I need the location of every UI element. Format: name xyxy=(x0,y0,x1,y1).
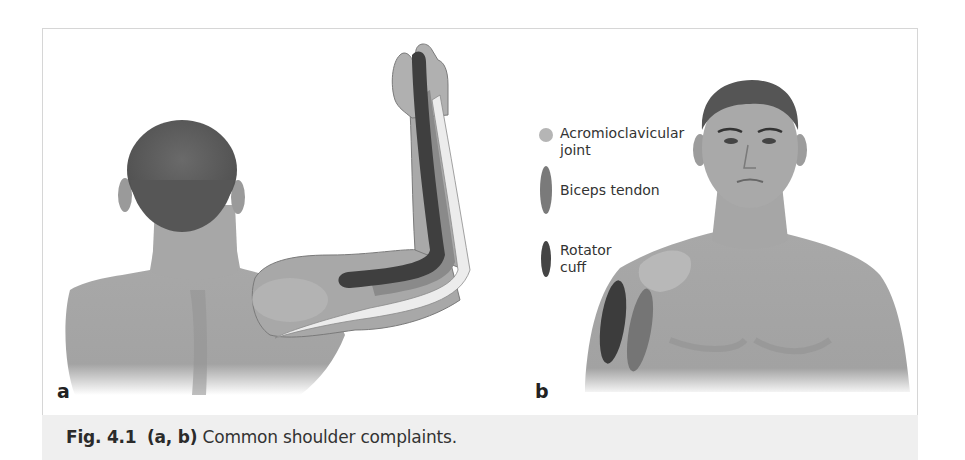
legend-label: Biceps tendon xyxy=(560,182,660,199)
figure-number: Fig. 4.1 xyxy=(66,427,137,447)
legend-acromioclavicular: Acromioclavicular joint xyxy=(560,125,684,159)
legend-label: Rotator xyxy=(560,242,612,259)
figure-illustration xyxy=(0,0,965,460)
legend-biceps-tendon: Biceps tendon xyxy=(560,182,660,199)
panel-label-b: b xyxy=(535,380,549,402)
figure-caption: Fig. 4.1 (a, b) Common shoulder complain… xyxy=(66,427,457,447)
biceps-tendon-swatch-icon xyxy=(540,166,552,214)
legend-label: Acromioclavicular xyxy=(560,125,684,142)
legend-label: cuff xyxy=(560,259,612,276)
rotator-cuff-swatch-icon xyxy=(541,241,551,277)
caption-band: Fig. 4.1 (a, b) Common shoulder complain… xyxy=(42,415,918,460)
figure-parts: (a, b) xyxy=(147,427,197,447)
acromioclavicular-swatch-icon xyxy=(539,128,553,142)
panel-label-a: a xyxy=(57,380,70,402)
panel-a-illustration xyxy=(65,44,470,395)
legend-swatches xyxy=(539,128,553,277)
caption-text: Common shoulder complaints. xyxy=(203,427,457,447)
legend-rotator-cuff: Rotator cuff xyxy=(560,242,612,276)
legend-label: joint xyxy=(560,142,684,159)
